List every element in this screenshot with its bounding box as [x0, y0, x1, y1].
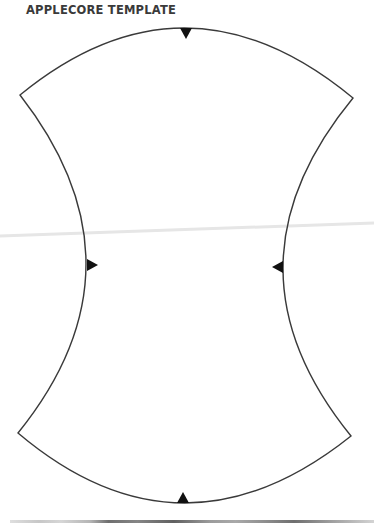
applecore-template-shape [0, 0, 374, 525]
right-marker-triangle-icon [272, 261, 283, 273]
bottom-marker-triangle-icon [177, 492, 189, 503]
scan-artifact-band [10, 520, 374, 523]
top-marker-triangle-icon [180, 28, 192, 39]
template-outline [18, 28, 353, 503]
left-marker-triangle-icon [87, 259, 98, 271]
